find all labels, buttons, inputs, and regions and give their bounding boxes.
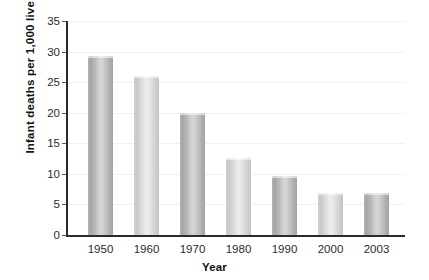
bar	[180, 113, 205, 235]
y-tick-label: 35	[34, 15, 60, 27]
bar-top-highlight	[364, 193, 389, 195]
plot-area	[66, 21, 405, 237]
bar-chart: Infant deaths per 1,000 live births 0510…	[0, 0, 429, 280]
y-tick-label: 25	[34, 76, 60, 88]
gridline	[68, 143, 405, 144]
bar	[88, 56, 113, 235]
x-tick-label: 1960	[122, 243, 172, 256]
gridline	[68, 113, 405, 114]
y-tick-label: 15	[34, 137, 60, 149]
y-tick-label: 20	[34, 107, 60, 119]
y-tick-label: 5	[34, 198, 60, 210]
bar	[134, 76, 159, 235]
bar	[364, 193, 389, 235]
y-axis-tick-labels: 05101520253035	[30, 21, 60, 237]
bar	[318, 193, 343, 235]
bar-top-highlight	[226, 158, 251, 160]
gridline	[68, 82, 405, 83]
x-axis-line	[66, 235, 405, 237]
bar-top-highlight	[88, 56, 113, 58]
bar-top-highlight	[180, 113, 205, 115]
bar	[226, 158, 251, 235]
bar-top-highlight	[134, 76, 159, 78]
x-tick-label: 1980	[214, 243, 264, 256]
x-tick-label: 1970	[168, 243, 218, 256]
y-tick-label: 30	[34, 46, 60, 58]
bar-top-highlight	[318, 193, 343, 195]
x-tick-label: 2003	[352, 243, 402, 256]
gridline	[68, 52, 405, 53]
y-axis-line	[66, 21, 68, 237]
x-tick-label: 1990	[260, 243, 310, 256]
gridline	[68, 21, 405, 22]
x-tick-label: 1950	[76, 243, 126, 256]
y-tick-label: 10	[34, 168, 60, 180]
x-tick-label: 2000	[306, 243, 356, 256]
bar	[272, 176, 297, 235]
bar-top-highlight	[272, 176, 297, 178]
y-tick-label: 0	[34, 229, 60, 241]
x-axis-title: Year	[0, 261, 429, 273]
